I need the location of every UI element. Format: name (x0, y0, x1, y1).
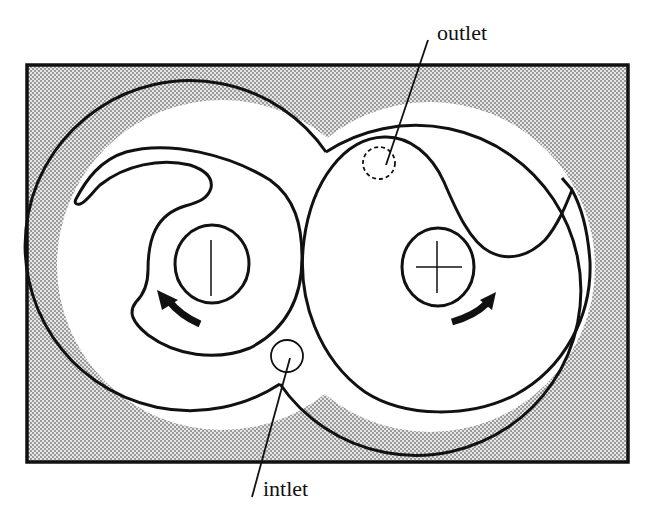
right-shaft (402, 228, 474, 306)
left-shaft (175, 225, 249, 303)
compressor-diagram (0, 0, 650, 513)
inlet-label: intlet (263, 478, 308, 500)
outlet-label: outlet (437, 22, 487, 44)
